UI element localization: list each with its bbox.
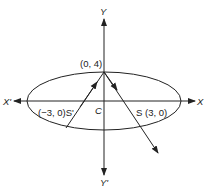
x-axis-label: X — [196, 96, 204, 107]
ellipse-diagram: Y Y' X X' C (0, 4) (−3, 0)S' S (3, 0) — [0, 0, 205, 189]
top-vertex-label: (0, 4) — [80, 58, 102, 69]
right-focus-label: S (3, 0) — [136, 107, 167, 118]
left-focus-label: (−3, 0)S' — [38, 107, 74, 118]
incident-ray-arrow — [80, 82, 97, 107]
x-prime-axis-label: X' — [2, 96, 12, 107]
y-prime-axis-label: Y' — [100, 177, 109, 188]
center-label: C — [95, 105, 102, 116]
y-axis-label: Y — [100, 6, 107, 17]
